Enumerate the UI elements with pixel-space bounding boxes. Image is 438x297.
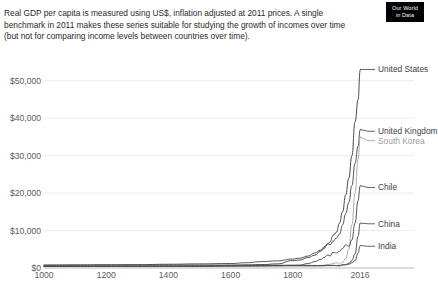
logo-line-1: Our World: [386, 5, 424, 12]
chart-area: $0$10,000$20,000$30,000$40,000$50,000 10…: [0, 44, 428, 297]
series-label-united-states[interactable]: United States: [378, 64, 428, 74]
our-world-in-data-logo: Our World in Data: [386, 2, 424, 22]
series-label-china[interactable]: China: [378, 219, 400, 229]
series-label-south-korea[interactable]: South Korea: [378, 136, 425, 146]
series-label-chile[interactable]: Chile: [378, 182, 397, 192]
logo-line-2: in Data: [386, 12, 424, 19]
series-end-labels: United StatesUnited KingdomSouth KoreaCh…: [0, 44, 428, 297]
series-label-india[interactable]: India: [378, 241, 396, 251]
chart-subtitle: Real GDP per capita is measured using US…: [4, 8, 356, 43]
